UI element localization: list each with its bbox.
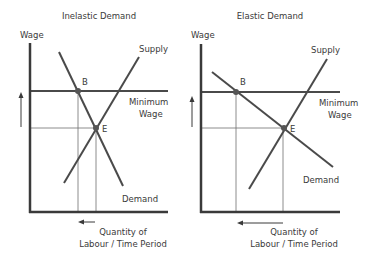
quantity-left-arrow-icon bbox=[78, 220, 95, 225]
point-e bbox=[93, 125, 99, 131]
x-axis-label-line1: Quantity of bbox=[270, 227, 319, 237]
minimum-wage-label-line1: Minimum bbox=[319, 98, 358, 108]
panel-elastic: Elastic Demand Wage B E Supply Minimum W… bbox=[190, 11, 359, 249]
point-b bbox=[233, 89, 239, 95]
demand-curve bbox=[59, 52, 123, 186]
panel-inelastic: Inelastic Demand Wage B E Supply Minimum… bbox=[19, 11, 169, 249]
wage-up-arrow-icon bbox=[190, 96, 195, 127]
supply-label: Supply bbox=[311, 45, 340, 55]
y-axis-label: Wage bbox=[191, 30, 215, 40]
point-b bbox=[75, 88, 81, 94]
point-e-label: E bbox=[102, 124, 107, 134]
supply-curve bbox=[64, 57, 139, 183]
wage-up-arrow-icon bbox=[19, 92, 24, 127]
panel-title: Inelastic Demand bbox=[62, 11, 136, 21]
point-b-label: B bbox=[240, 77, 246, 87]
demand-label: Demand bbox=[303, 175, 339, 185]
point-b-label: B bbox=[82, 77, 88, 87]
minimum-wage-label-line2: Wage bbox=[139, 109, 163, 119]
demand-curve bbox=[212, 72, 333, 167]
quantity-left-arrow-icon bbox=[237, 221, 283, 226]
x-axis-label-line2: Labour / Time Period bbox=[79, 239, 167, 249]
point-e-label: E bbox=[290, 124, 295, 134]
minimum-wage-label-line2: Wage bbox=[328, 110, 352, 120]
minimum-wage-label-line1: Minimum bbox=[129, 97, 168, 107]
supply-label: Supply bbox=[139, 44, 168, 54]
demand-label: Demand bbox=[122, 194, 158, 204]
point-e bbox=[281, 125, 287, 131]
minimum-wage-diagrams: Inelastic Demand Wage B E Supply Minimum… bbox=[0, 0, 373, 264]
panel-title: Elastic Demand bbox=[237, 11, 304, 21]
y-axis-label: Wage bbox=[20, 30, 44, 40]
x-axis-label-line2: Labour / Time Period bbox=[250, 239, 338, 249]
supply-curve bbox=[249, 59, 327, 189]
x-axis-label-line1: Quantity of bbox=[99, 227, 148, 237]
